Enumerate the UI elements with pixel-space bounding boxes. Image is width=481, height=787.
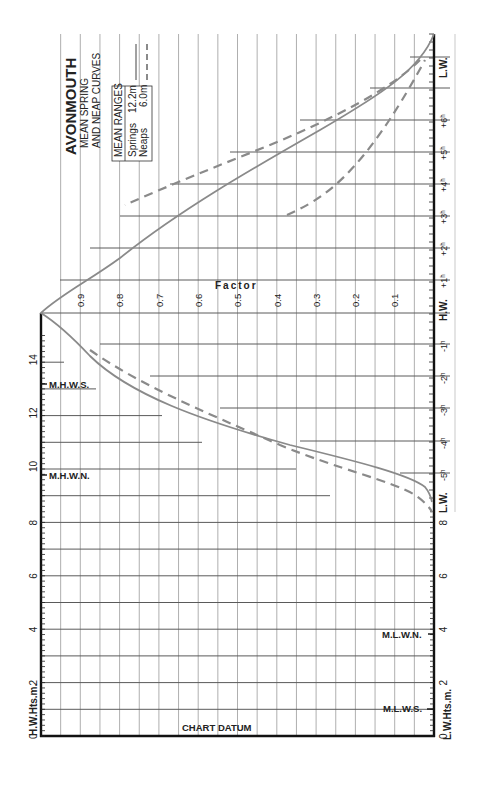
svg-text:-2ʰ: -2ʰ [439,372,449,384]
svg-text:0.8: 0.8 [114,294,125,307]
mhws-label: M.H.W.S. [49,379,89,390]
factor-tick: 0.6 [193,294,204,307]
svg-text:8: 8 [438,519,449,525]
svg-text:+5ʰ: +5ʰ [439,146,449,160]
svg-text:6: 6 [28,573,39,579]
svg-text:-5ʰ: -5ʰ [439,469,449,481]
subtitle-line-1: MEAN SPRING [79,78,90,148]
svg-text:4: 4 [28,626,39,632]
time-tick: +1ʰ [439,274,449,288]
hw-height-tick: 14 [28,354,39,366]
factor-axis-label: Factor [215,280,258,291]
factor-tick: 0.7 [154,294,165,307]
svg-text:+6ʰ: +6ʰ [439,114,449,128]
lw-height-axis-title: L.W.Hts.m. [442,689,453,740]
hw-height-tick: 10 [28,460,39,472]
factor-tick: 0.9 [75,294,86,307]
svg-text:2: 2 [438,680,449,686]
chart-datum-label: CHART DATUM [182,722,252,733]
legend-springs-value: 12.2m [127,85,138,113]
hw-height-tick: 6 [28,573,39,579]
time-tick: +3ʰ [439,210,449,224]
hw-height-tick: 4 [28,626,39,632]
hw-height-axis-label: H.W.Hts.m. [28,684,39,736]
svg-text:10: 10 [28,460,39,472]
svg-text:0.7: 0.7 [154,294,165,307]
factor-tick: 0.5 [232,294,243,307]
svg-text:12: 12 [28,407,39,419]
time-tick: L.W. [438,57,449,78]
time-tick: +4ʰ [439,178,449,192]
svg-text:L.W.: L.W. [438,492,449,513]
time-tick: L.W. [438,492,449,513]
svg-text:0.4: 0.4 [272,294,283,307]
svg-text:4: 4 [438,626,449,632]
legend-springs-label: Springs [127,123,138,157]
hw-height-tick: 8 [28,519,39,525]
legend-neaps-value: 6.0m [138,85,149,107]
lw-height-tick: 2 [438,680,449,686]
svg-text:+1ʰ: +1ʰ [439,274,449,288]
svg-text:+3ʰ: +3ʰ [439,210,449,224]
legend-heading: MEAN RANGES [113,83,124,157]
svg-text:0.3: 0.3 [311,294,322,307]
factor-tick: 0.4 [272,294,283,307]
mlws-label: M.L.W.S. [383,703,422,714]
svg-text:+2ʰ: +2ʰ [439,242,449,256]
subtitle-line-2: AND NEAP CURVES [91,52,102,148]
time-tick: -5ʰ [439,469,449,481]
port-title: AVONMOUTH [62,58,79,155]
svg-text:L.W.: L.W. [438,57,449,78]
svg-text:0.9: 0.9 [75,294,86,307]
svg-text:-4ʰ: -4ʰ [439,437,449,449]
tidal-curve-chart: AVONMOUTH MEAN SPRING AND NEAP CURVES ME… [0,0,481,787]
time-tick: +2ʰ [439,242,449,256]
svg-text:0.6: 0.6 [193,294,204,307]
lw-height-axis-label: L.W.Hts.m. [442,689,453,740]
time-tick: -3ʰ [439,404,449,416]
svg-text:0.5: 0.5 [232,294,243,307]
svg-text:0.1: 0.1 [389,294,400,307]
svg-text:-3ʰ: -3ʰ [439,404,449,416]
time-tick: +6ʰ [439,114,449,128]
time-tick: -4ʰ [439,437,449,449]
time-tick: -2ʰ [439,372,449,384]
time-tick: -1ʰ [439,340,449,352]
factor-tick: 0.3 [311,294,322,307]
time-tick: H.W. [438,299,449,321]
mhwn-label: M.H.W.N. [49,470,90,481]
svg-text:-1ʰ: -1ʰ [439,340,449,352]
legend-heading-text: MEAN RANGES [113,83,124,157]
mlwn-label: M.L.W.N. [382,629,422,640]
svg-text:8: 8 [28,519,39,525]
svg-text:14: 14 [28,354,39,366]
hw-height-axis-title: H.W.Hts.m. [28,684,39,736]
time-tick: +5ʰ [439,146,449,160]
time-tick-labels: L.W.-5ʰ-4ʰ-3ʰ-2ʰ-1ʰH.W.+1ʰ+2ʰ+3ʰ+4ʰ+5ʰ+6… [438,57,449,513]
factor-tick-labels: 0.90.80.70.60.50.40.30.20.1 [75,294,400,307]
hw-height-tick-labels: 02468101214 [28,354,39,739]
legend-neaps-label: Neaps [138,128,149,157]
hw-height-tick: 12 [28,407,39,419]
lw-height-tick: 4 [438,626,449,632]
factor-tick: 0.1 [389,294,400,307]
lw-height-tick: 8 [438,519,449,525]
lw-height-tick: 6 [438,573,449,579]
svg-text:0.2: 0.2 [350,294,361,307]
subtitle-block: MEAN SPRING AND NEAP CURVES [79,52,102,148]
title-block: AVONMOUTH [62,58,79,155]
svg-text:H.W.: H.W. [438,299,449,321]
svg-text:6: 6 [438,573,449,579]
svg-text:+4ʰ: +4ʰ [439,178,449,192]
factor-tick: 0.8 [114,294,125,307]
factor-tick: 0.2 [350,294,361,307]
